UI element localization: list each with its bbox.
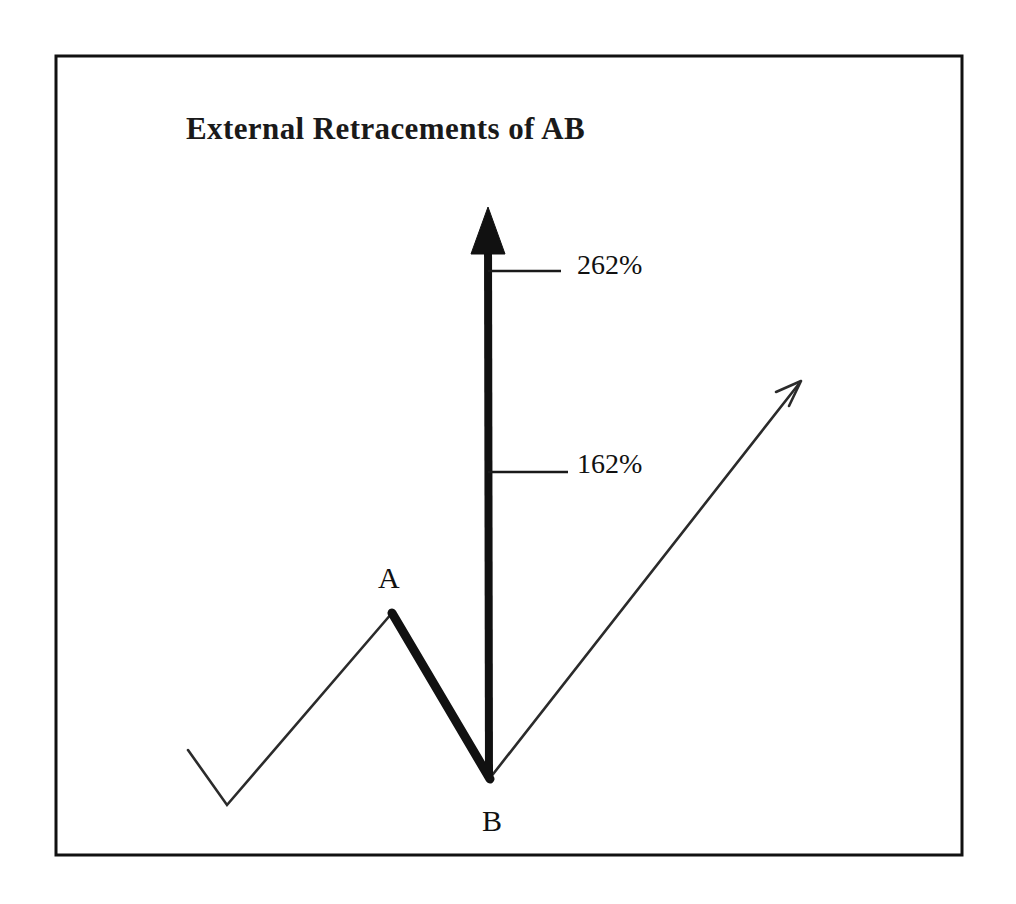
measuring-arrow-head-icon bbox=[471, 207, 505, 254]
outer-border bbox=[56, 56, 962, 855]
measuring-arrow-shaft bbox=[488, 238, 489, 779]
retracement-label-162: 162% bbox=[577, 450, 642, 478]
price-zigzag-thin-lead-in bbox=[188, 613, 392, 805]
projection-up-trend-line bbox=[490, 385, 798, 778]
swing-high-label-a: A bbox=[378, 563, 400, 593]
leg-ab-thick bbox=[392, 613, 490, 779]
swing-low-label-b: B bbox=[482, 806, 502, 836]
page-title: External Retracements of AB bbox=[186, 113, 585, 144]
figure-root: External Retracements of AB 262% 162% A … bbox=[0, 0, 1016, 904]
retracement-label-262: 262% bbox=[577, 251, 642, 279]
